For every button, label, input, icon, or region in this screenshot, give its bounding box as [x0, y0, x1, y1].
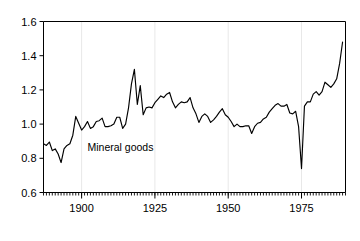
y-tick-label-1.6: 1.6 — [21, 16, 36, 28]
series-annotation-mineral-goods: Mineral goods — [87, 141, 153, 153]
x-tick-label-1975: 1975 — [289, 202, 313, 214]
chart-annotations: Mineral goods — [87, 141, 153, 153]
y-tick-label-1.4: 1.4 — [21, 50, 36, 62]
chart-container: 0.60.81.01.21.41.6 1900192519501975 Mine… — [0, 0, 360, 241]
y-tick-label-1.0: 1.0 — [21, 118, 36, 130]
x-tick-label-1950: 1950 — [216, 202, 240, 214]
line-chart: 0.60.81.01.21.41.6 1900192519501975 Mine… — [0, 0, 360, 241]
y-tick-label-1.2: 1.2 — [21, 84, 36, 96]
x-tick-label-1925: 1925 — [143, 202, 167, 214]
y-tick-label-0.6: 0.6 — [21, 187, 36, 199]
x-tick-label-1900: 1900 — [69, 202, 93, 214]
y-tick-label-0.8: 0.8 — [21, 152, 36, 164]
